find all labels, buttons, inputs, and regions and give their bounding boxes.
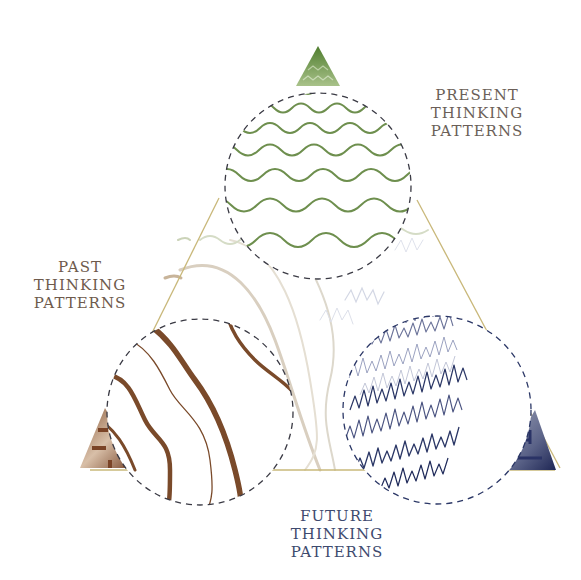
present-corner-triangle [296, 46, 340, 86]
future-label-line1: FUTURE [262, 507, 412, 525]
past-label-line3: PATTERNS [20, 294, 140, 312]
present-label-line2: THINKING [412, 104, 542, 122]
future-label-line2: THINKING [262, 525, 412, 543]
future-thinking-patterns-label: FUTURE THINKING PATTERNS [262, 507, 412, 561]
present-thinking-patterns-label: PRESENT THINKING PATTERNS [412, 86, 542, 140]
present-label-line1: PRESENT [412, 86, 542, 104]
past-label-line1: PAST [20, 258, 140, 276]
present-pattern-circle [200, 86, 431, 279]
past-thinking-patterns-label: PAST THINKING PATTERNS [20, 258, 140, 312]
past-pattern-circle [100, 308, 300, 520]
future-label-line3: PATTERNS [262, 543, 412, 561]
past-label-line2: THINKING [20, 276, 140, 294]
present-label-line3: PATTERNS [412, 122, 542, 140]
future-pattern-circle [340, 299, 531, 504]
